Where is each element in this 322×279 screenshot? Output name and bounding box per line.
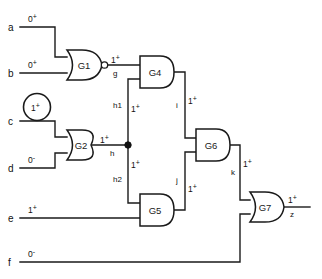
gate-G1-inversion-bubble [101, 62, 107, 68]
net-label-i: i [176, 101, 178, 110]
input-value-b: 0+ [28, 59, 37, 70]
input-value-d: 0- [28, 154, 36, 165]
gate-G7[interactable]: G7 [250, 192, 284, 222]
net-junction-h [125, 142, 131, 148]
input-label-f: f [8, 257, 11, 268]
input-value-e: 1+ [28, 204, 37, 215]
gate-G2-label: G2 [75, 140, 88, 151]
net-label-h2: h2 [113, 175, 122, 184]
net-value-h: 1+ [100, 134, 109, 145]
gate-G1-label: G1 [78, 60, 91, 71]
logic-circuit-diagram: G1 G2 G4 G5 G6 G7 a [0, 0, 322, 279]
input-value-c: 1+ [31, 102, 40, 113]
net-label-h: h [110, 149, 114, 158]
wire-h2-to-g5 [128, 145, 140, 203]
output-value-z: 1+ [288, 194, 297, 205]
gate-G2[interactable]: G2 [67, 130, 93, 160]
gate-G6-label: G6 [205, 140, 218, 151]
net-value-k: 1+ [243, 158, 252, 169]
input-label-b: b [8, 68, 14, 79]
input-value-layer: 0+ 0+ 1+ 0- 1+ 0- [28, 13, 40, 259]
net-label-k: k [231, 168, 236, 177]
circuit-canvas: G1 G2 G4 G5 G6 G7 a [0, 0, 322, 279]
input-label-d: d [8, 163, 14, 174]
net-value-h1: 1+ [131, 103, 140, 114]
output-label-z: z [290, 210, 294, 219]
gate-G7-label: G7 [259, 202, 272, 213]
net-label-g: g [113, 69, 117, 78]
gate-G5-label: G5 [149, 205, 162, 216]
net-label-j: j [175, 176, 178, 185]
input-label-layer: a b c d e f [8, 22, 14, 268]
wire-a-to-g1 [20, 27, 67, 57]
gate-G5[interactable]: G5 [140, 194, 174, 226]
net-value-i: 1+ [188, 95, 197, 106]
gate-G1[interactable]: G1 [67, 50, 108, 80]
net-label-h1: h1 [113, 101, 122, 110]
gate-G6[interactable]: G6 [196, 129, 230, 161]
input-label-e: e [8, 213, 14, 224]
gate-G4-label: G4 [149, 67, 162, 78]
net-value-j: 1+ [188, 183, 197, 194]
input-label-a: a [8, 22, 14, 33]
input-value-a: 0+ [28, 13, 37, 24]
net-value-h2: 1+ [131, 159, 140, 170]
input-label-c: c [8, 116, 13, 127]
net-value-g: 1+ [111, 54, 120, 65]
input-value-f: 0- [28, 248, 36, 259]
gate-G4[interactable]: G4 [140, 56, 174, 88]
wire-c-to-g2 [20, 121, 67, 137]
wire-f-to-g7 [20, 214, 250, 262]
